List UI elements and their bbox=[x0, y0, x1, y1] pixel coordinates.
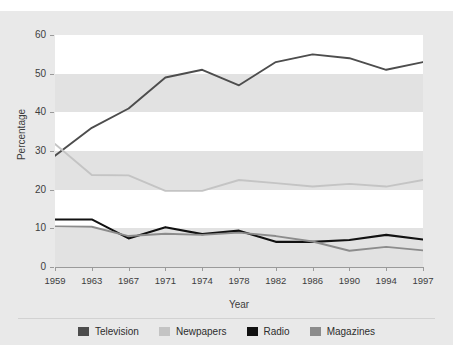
x-tick-mark bbox=[165, 267, 166, 271]
legend-label: Newpapers bbox=[176, 326, 227, 337]
x-tick-label: 1963 bbox=[72, 276, 112, 286]
legend-item-newpapers[interactable]: Newpapers bbox=[159, 326, 227, 337]
x-tick-label: 1974 bbox=[182, 276, 222, 286]
y-tick-label: 60 bbox=[0, 30, 46, 40]
y-tick-mark bbox=[50, 151, 54, 152]
x-tick-mark bbox=[349, 267, 350, 271]
legend-swatch-icon bbox=[247, 327, 258, 336]
legend-label: Radio bbox=[264, 326, 290, 337]
x-tick-mark bbox=[239, 267, 240, 271]
legend-label: Magazines bbox=[327, 326, 375, 337]
y-tick-mark bbox=[50, 74, 54, 75]
legend-divider bbox=[18, 318, 435, 319]
y-tick-mark bbox=[50, 112, 54, 113]
x-tick-mark bbox=[423, 267, 424, 271]
x-tick-label: 1994 bbox=[366, 276, 406, 286]
x-tick-mark bbox=[55, 267, 56, 271]
series-line-television bbox=[55, 54, 423, 155]
chart-legend: TelevisionNewpapersRadioMagazines bbox=[0, 326, 453, 337]
x-axis-title: Year bbox=[55, 299, 423, 310]
y-tick-label: 20 bbox=[0, 185, 46, 195]
x-tick-label: 1986 bbox=[293, 276, 333, 286]
y-tick-label: 0 bbox=[0, 262, 46, 272]
x-tick-label: 1982 bbox=[256, 276, 296, 286]
x-tick-label: 1990 bbox=[329, 276, 369, 286]
x-tick-label: 1971 bbox=[145, 276, 185, 286]
legend-item-magazines[interactable]: Magazines bbox=[310, 326, 375, 337]
x-tick-label: 1997 bbox=[403, 276, 443, 286]
series-line-newpapers bbox=[55, 144, 423, 191]
legend-item-radio[interactable]: Radio bbox=[247, 326, 290, 337]
y-axis-title: Percentage bbox=[16, 90, 27, 180]
y-tick-label: 50 bbox=[0, 69, 46, 79]
legend-swatch-icon bbox=[159, 327, 170, 336]
legend-swatch-icon bbox=[78, 327, 89, 336]
x-tick-label: 1967 bbox=[109, 276, 149, 286]
x-tick-mark bbox=[129, 267, 130, 271]
x-tick-mark bbox=[313, 267, 314, 271]
legend-label: Television bbox=[95, 326, 139, 337]
x-tick-mark bbox=[92, 267, 93, 271]
x-tick-mark bbox=[202, 267, 203, 271]
x-tick-label: 1959 bbox=[35, 276, 75, 286]
y-tick-mark bbox=[50, 228, 54, 229]
series-lines bbox=[55, 35, 423, 267]
y-tick-label: 10 bbox=[0, 223, 46, 233]
x-tick-mark bbox=[386, 267, 387, 271]
chart-figure: 0102030405060 19591963196719711974197819… bbox=[0, 0, 453, 345]
cropped-title-remnant bbox=[123, 0, 243, 9]
legend-swatch-icon bbox=[310, 327, 321, 336]
legend-item-television[interactable]: Television bbox=[78, 326, 139, 337]
y-tick-mark bbox=[50, 267, 54, 268]
y-tick-mark bbox=[50, 190, 54, 191]
plot-area bbox=[55, 35, 423, 267]
x-tick-label: 1978 bbox=[219, 276, 259, 286]
y-tick-mark bbox=[50, 35, 54, 36]
x-tick-mark bbox=[276, 267, 277, 271]
chart-canvas: 0102030405060 19591963196719711974197819… bbox=[0, 11, 453, 345]
